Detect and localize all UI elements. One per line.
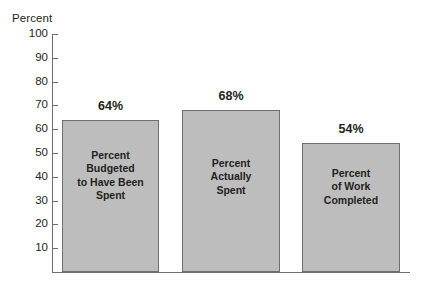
- bar: Percent of Work Completed: [302, 143, 400, 272]
- y-axis-tick: [52, 105, 58, 106]
- bar: Percent Actually Spent: [182, 110, 280, 272]
- y-axis-tick-label: 70: [14, 99, 48, 111]
- bar-category-label: Percent Actually Spent: [183, 157, 279, 197]
- y-axis-tick: [52, 153, 58, 154]
- y-axis-tick-label: 80: [14, 76, 48, 88]
- bar-value-label: 64%: [62, 100, 159, 113]
- y-axis-tick: [52, 129, 58, 130]
- y-axis-tick-label: 20: [14, 218, 48, 230]
- y-axis-tick: [52, 201, 58, 202]
- bar-category-label: Percent of Work Completed: [303, 167, 399, 207]
- y-axis-tick: [52, 177, 58, 178]
- y-axis-tick-label: 90: [14, 52, 48, 64]
- y-axis-tick-label: 30: [14, 195, 48, 207]
- y-axis-tick: [52, 248, 58, 249]
- bar: Percent Budgeted to Have Been Spent: [62, 120, 159, 272]
- bar-value-label: 54%: [302, 123, 400, 136]
- y-axis-title: Percent: [12, 12, 52, 24]
- y-axis-tick: [52, 58, 58, 59]
- y-axis-tick: [52, 82, 58, 83]
- bar-chart: Percent 100908070605040302010 64%Percent…: [0, 0, 422, 294]
- x-axis-line: [52, 272, 410, 273]
- y-axis-tick-label: 60: [14, 123, 48, 135]
- y-axis-tick-label: 10: [14, 242, 48, 254]
- y-axis-tick-label: 50: [14, 147, 48, 159]
- bar-value-label: 68%: [182, 90, 280, 103]
- y-axis-tick: [52, 34, 58, 35]
- y-axis-tick: [52, 224, 58, 225]
- y-axis-tick-label: 100: [14, 28, 48, 40]
- y-axis-tick-label: 40: [14, 171, 48, 183]
- bar-category-label: Percent Budgeted to Have Been Spent: [63, 149, 158, 203]
